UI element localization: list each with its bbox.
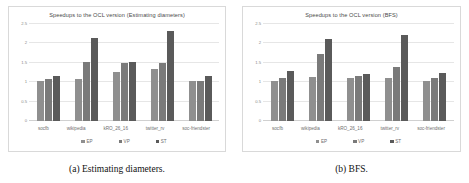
x-axis-labels-a: socfbwikipediakRO_26_16twitter_rvsoc-fri… [29,124,219,133]
bar-ep [75,79,82,121]
bar-st [325,39,332,121]
bar-vp [159,63,166,121]
y-axis-tick-label: 0.5 [21,98,27,103]
x-axis-category-label: twitter_rv [146,124,165,133]
legend-swatch-icon [316,140,320,144]
x-axis-category-label: soc-friendster [182,124,210,133]
bar-st [287,71,294,121]
bar-vp [431,78,438,121]
chart-frame-b: Speedups to the OCL version (BFS) 00.511… [242,6,461,152]
x-axis-category-label: socfb [272,124,283,133]
y-axis-tick-label: 2.5 [21,21,27,26]
bar-st [401,35,408,121]
y-axis-tick-label: 1 [25,79,27,84]
bar-group [423,24,446,121]
bar-vp [83,62,90,121]
x-axis-category-label: wikipedia [301,124,320,133]
legend-label: ST [395,139,401,144]
bar-vp [317,54,324,122]
figure-captions: (a) Estimating diameters. (b) BFS. [0,158,469,183]
bar-ep [37,81,44,121]
legend-swatch-icon [119,140,123,144]
chart-panel-a: Speedups to the OCL version (Estimating … [0,0,234,158]
caption-a: (a) Estimating diameters. [0,158,234,183]
bar-vp [355,76,362,121]
bar-ep [151,69,158,121]
bar-vp [197,81,204,121]
y-axis-tick-label: 1 [259,79,261,84]
legend-swatch-icon [390,140,394,144]
x-axis-category-label: socfb [38,124,49,133]
x-axis-category-label: soc-friendster [417,124,445,133]
legend-a: EPVPST [29,137,219,146]
legend-label: VP [358,139,364,144]
plot-area-a: 00.511.522.5 [29,24,219,121]
bar-group [385,24,408,121]
bar-st [439,73,446,121]
bar-group [347,24,370,121]
y-axis-tick-label: 2 [259,40,261,45]
legend-label: ST [161,139,167,144]
legend-item-ep[interactable]: EP [316,139,327,144]
legend-item-st[interactable]: ST [156,139,167,144]
bar-groups-b [263,24,454,121]
bar-st [129,62,136,121]
legend-label: EP [321,139,327,144]
bar-group [151,24,174,121]
legend-label: VP [124,139,130,144]
bar-ep [347,78,354,121]
bar-ep [189,81,196,121]
y-axis-tick-label: 1.5 [21,59,27,64]
x-axis-labels-b: socfbwikipediakRO_26_16twitter_rvsoc-fri… [263,124,454,133]
legend-label: EP [86,139,92,144]
legend-item-ep[interactable]: EP [81,139,92,144]
bar-st [167,31,174,121]
x-axis-category-label: kRO_26_16 [338,124,363,133]
chart-panel-b: Speedups to the OCL version (BFS) 00.511… [234,0,469,158]
legend-b: EPVPST [263,137,454,146]
bar-ep [309,77,316,121]
y-axis-tick-label: 2.5 [255,21,261,26]
x-axis-category-label: wikipedia [67,124,86,133]
bar-group [37,24,60,121]
bar-ep [113,72,120,121]
bar-st [363,74,370,121]
bar-vp [121,63,128,121]
legend-item-st[interactable]: ST [390,139,401,144]
bar-st [91,38,98,121]
bar-vp [279,78,286,121]
bar-st [205,76,212,121]
bar-ep [385,78,392,121]
bar-vp [45,79,52,121]
legend-item-vp[interactable]: VP [119,139,130,144]
legend-swatch-icon [156,140,160,144]
caption-b: (b) BFS. [234,158,469,183]
y-axis-tick-label: 1.5 [255,59,261,64]
y-axis-tick-label: 0 [25,118,27,123]
bar-ep [423,81,430,121]
plot-area-b: 00.511.522.5 [263,24,454,121]
x-axis-category-label: kRO_26_16 [103,124,128,133]
chart-panels: Speedups to the OCL version (Estimating … [0,0,469,158]
bar-group [189,24,212,121]
chart-title-a: Speedups to the OCL version (Estimating … [9,12,225,18]
bar-groups-a [29,24,219,121]
figure-container: Speedups to the OCL version (Estimating … [0,0,469,183]
y-axis-tick-label: 0 [259,118,261,123]
bar-group [75,24,98,121]
legend-swatch-icon [353,140,357,144]
y-axis-tick-label: 0.5 [255,98,261,103]
bar-group [113,24,136,121]
legend-item-vp[interactable]: VP [353,139,364,144]
bar-group [309,24,332,121]
y-axis-tick-label: 2 [25,40,27,45]
chart-title-b: Speedups to the OCL version (BFS) [243,12,460,18]
bar-group [271,24,294,121]
legend-swatch-icon [81,140,85,144]
bar-vp [393,67,400,121]
bar-ep [271,81,278,121]
chart-frame-a: Speedups to the OCL version (Estimating … [8,6,226,152]
x-axis-category-label: twitter_rv [380,124,399,133]
bar-st [53,76,60,121]
